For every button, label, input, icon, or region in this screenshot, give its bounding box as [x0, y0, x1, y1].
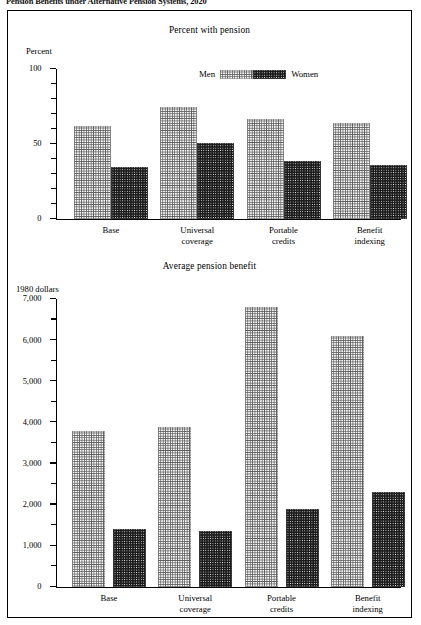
y-tick-major: 100	[50, 68, 57, 69]
x-category-label-line: Benefit	[317, 593, 419, 604]
bar-men-portable-credits	[245, 307, 278, 587]
page-title: Pension Benefits under Alternative Pensi…	[6, 0, 207, 6]
y-tick-minor	[51, 188, 56, 189]
bar-men-base	[72, 431, 105, 587]
y-tick-label: 1,000	[23, 541, 42, 550]
y-axis-unit-top: Percent	[26, 46, 52, 56]
y-tick-label: 7,000	[23, 294, 42, 303]
y-tick-label: 2,000	[23, 500, 42, 509]
y-tick-minor	[51, 158, 56, 159]
y-tick-minor	[51, 318, 56, 319]
chart-title-top: Percent with pension	[8, 25, 411, 35]
y-tick-minor	[51, 128, 56, 129]
y-tick-label: 100	[29, 64, 42, 73]
bar-men-base	[74, 126, 111, 219]
y-tick-label: 4,000	[23, 417, 42, 426]
y-tick-major: 6,000	[50, 339, 57, 340]
x-category-label-line: indexing	[317, 604, 419, 615]
plot-area-bottom: 01,0002,0003,0004,0005,0006,0007,000	[56, 299, 401, 587]
bar-women-portable-credits	[284, 161, 321, 220]
y-tick-label: 5,000	[23, 376, 42, 385]
bar-women-benefit-indexing	[372, 492, 405, 587]
y-tick-label: 0	[37, 214, 41, 223]
bar-men-portable-credits	[247, 119, 284, 220]
y-tick-minor	[51, 83, 56, 84]
y-tick-minor	[51, 483, 56, 484]
bar-women-universal-coverage	[197, 143, 234, 220]
y-tick-minor	[51, 524, 56, 525]
y-tick-label: 50	[33, 139, 41, 148]
y-tick-label: 3,000	[23, 458, 42, 467]
y-tick-major: 7,000	[50, 298, 57, 299]
x-category-label-benefit-indexing: Benefitindexing	[317, 593, 419, 614]
y-tick-minor	[51, 113, 56, 114]
x-axis-top	[56, 219, 401, 220]
y-axis-top	[56, 69, 57, 219]
x-category-label-benefit-indexing: Benefitindexing	[319, 225, 421, 246]
x-category-label-line: Benefit	[319, 225, 421, 236]
bar-women-base	[111, 167, 148, 220]
y-tick-major: 5,000	[50, 380, 57, 381]
bar-men-universal-coverage	[160, 107, 197, 220]
y-tick-minor	[51, 173, 56, 174]
y-tick-major: 3,000	[50, 462, 57, 463]
figure-frame: Percent with pension Percent Men Women 0…	[7, 10, 412, 618]
y-tick-label: 6,000	[23, 335, 42, 344]
y-axis-unit-bottom: 1980 dollars	[16, 284, 59, 294]
y-tick-major: 0	[50, 218, 57, 219]
x-category-label-line: indexing	[319, 236, 421, 247]
y-tick-minor	[51, 203, 56, 204]
bar-women-base	[113, 529, 146, 587]
y-tick-minor	[51, 565, 56, 566]
y-tick-major: 4,000	[50, 421, 57, 422]
bar-women-universal-coverage	[199, 531, 232, 587]
y-axis-bottom	[56, 299, 57, 587]
y-tick-minor	[51, 98, 56, 99]
chart-title-bottom: Average pension benefit	[8, 261, 411, 271]
plot-area-top: 050100	[56, 69, 401, 219]
y-tick-minor	[51, 442, 56, 443]
y-tick-major: 1,000	[50, 545, 57, 546]
bar-women-portable-credits	[286, 509, 319, 587]
y-tick-major: 50	[50, 143, 57, 144]
bar-men-universal-coverage	[158, 427, 191, 587]
bar-men-benefit-indexing	[333, 123, 370, 219]
y-tick-major: 2,000	[50, 503, 57, 504]
y-tick-minor	[51, 360, 56, 361]
y-tick-major: 0	[50, 586, 57, 587]
y-tick-label: 0	[37, 582, 41, 591]
y-tick-minor	[51, 401, 56, 402]
bar-men-benefit-indexing	[331, 336, 364, 587]
x-axis-bottom	[56, 587, 401, 588]
bar-women-benefit-indexing	[370, 165, 407, 219]
